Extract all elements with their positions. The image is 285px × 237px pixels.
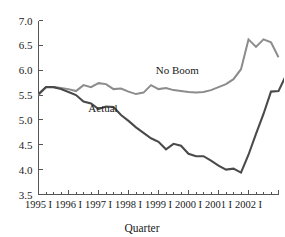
series-label-no-boom: No Boom — [156, 64, 200, 76]
x-tick-label: 2000 I — [175, 199, 203, 210]
series-annotations: No BoomActual — [88, 64, 199, 115]
x-axis-title: Quarter — [124, 222, 159, 234]
x-tick-label: 1995 I — [25, 199, 53, 210]
x-tick-label: 1999 I — [145, 199, 173, 210]
line-chart: 3.54.04.55.05.56.06.57.0 1995 I1996 I199… — [0, 0, 284, 237]
y-tick-label: 7.0 — [19, 15, 33, 27]
y-tick-label: 5.5 — [19, 89, 33, 101]
x-tick-label: 2001 I — [205, 199, 233, 210]
x-tick-label: 1997 I — [85, 199, 113, 210]
series-line-actual — [39, 75, 285, 172]
y-tick-label: 6.0 — [19, 64, 33, 76]
x-tick-label: 2002 I — [235, 199, 263, 210]
y-tick-label: 4.5 — [19, 139, 33, 151]
y-tick-label: 5.0 — [19, 114, 33, 126]
y-tick-label: 4.0 — [19, 164, 33, 176]
y-axis-ticks — [39, 21, 43, 195]
series-label-actual: Actual — [88, 102, 117, 114]
x-axis-tick-labels: 1995 I1996 I1997 I1998 I1999 I2000 I2001… — [25, 199, 263, 210]
y-tick-label: 6.5 — [19, 39, 33, 51]
x-axis-ticks — [39, 190, 279, 195]
x-tick-label: 1998 I — [115, 199, 143, 210]
x-tick-label: 1996 I — [55, 199, 83, 210]
series-layer — [39, 39, 285, 172]
chart-container: 3.54.04.55.05.56.06.57.0 1995 I1996 I199… — [0, 0, 284, 237]
y-axis-tick-labels: 3.54.04.55.05.56.06.57.0 — [19, 15, 33, 201]
